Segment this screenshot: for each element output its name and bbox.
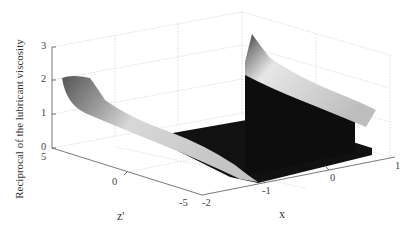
zprime-tick-neg5: -5 (179, 197, 188, 208)
x-tick-1: 1 (395, 160, 400, 171)
zprime-tick-5: 5 (41, 151, 46, 162)
zprime-tick-0: 0 (112, 176, 117, 187)
x-tick-neg1: -1 (262, 185, 271, 196)
zprime-axis-label: z' (117, 209, 125, 224)
z-tick-3: 3 (41, 40, 46, 51)
x-axis-label: x (279, 207, 285, 222)
z-tick-2: 2 (41, 73, 46, 84)
surface-plot (0, 0, 419, 230)
x-tick-0: 0 (330, 172, 335, 183)
z-axis-label: Reciprocal of the lubricant viscosity (13, 24, 25, 214)
x-tick-neg2: -2 (202, 197, 211, 208)
z-tick-1: 1 (41, 107, 46, 118)
